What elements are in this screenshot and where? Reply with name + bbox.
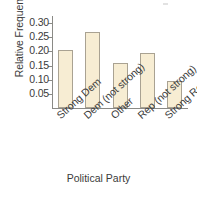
y-tick-label: 0.30: [29, 16, 49, 28]
y-tick-0.05: 0.05: [52, 94, 56, 95]
x-axis-tick-labels: Strong DemDem (not strong)OtherRep (not …: [0, 110, 197, 166]
y-tick-label: 0.20: [29, 44, 49, 56]
y-tick-label: 0.25: [29, 30, 49, 42]
x-axis-title: Political Party: [0, 172, 197, 184]
scan-artifact: [163, 3, 168, 5]
y-tick-0.20: 0.20: [52, 51, 56, 52]
y-tick-0.25: 0.25: [52, 37, 56, 38]
y-tick-label: 0.10: [29, 73, 49, 85]
y-tick-label: 0.05: [29, 87, 49, 99]
y-tick-0.15: 0.15: [52, 66, 56, 67]
bar-chart-figure: Relative Frequency 0.300.250.200.150.100…: [0, 0, 197, 199]
y-tick-0.10: 0.10: [52, 80, 56, 81]
y-axis-title: Relative Frequency: [12, 0, 26, 78]
y-tick-label: 0.15: [29, 59, 49, 71]
y-tick-0.30: 0.30: [52, 23, 56, 24]
